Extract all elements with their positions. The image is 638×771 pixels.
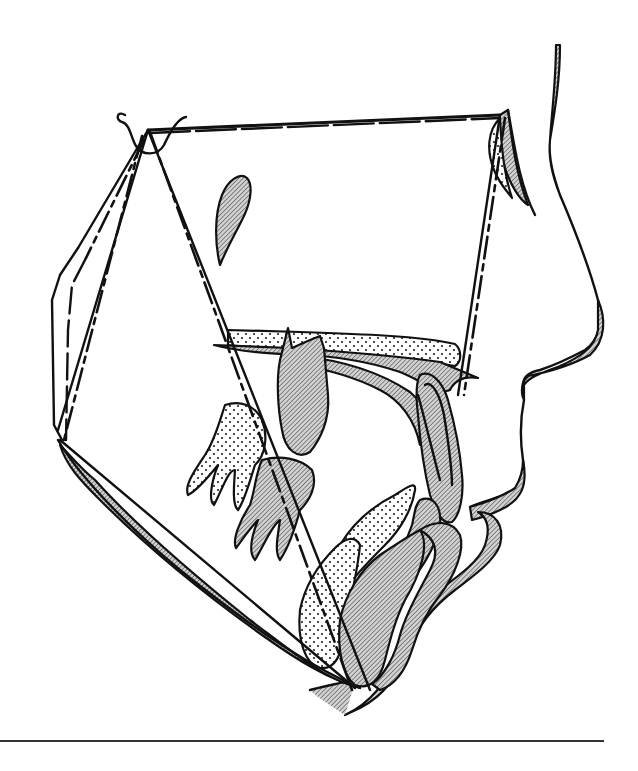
sn-line: [148, 115, 500, 133]
pterygomaxillary-fissure: [216, 176, 250, 265]
bottom-divider-line: [0, 740, 604, 742]
cephalometric-tracing-figure: [0, 0, 638, 771]
upper-molar-1: [278, 328, 328, 455]
nasal-bone: [489, 110, 535, 215]
soft-tissue-forehead: [522, 45, 603, 400]
s-go-lines: [58, 130, 148, 440]
mandibular-ramus: [52, 248, 86, 440]
